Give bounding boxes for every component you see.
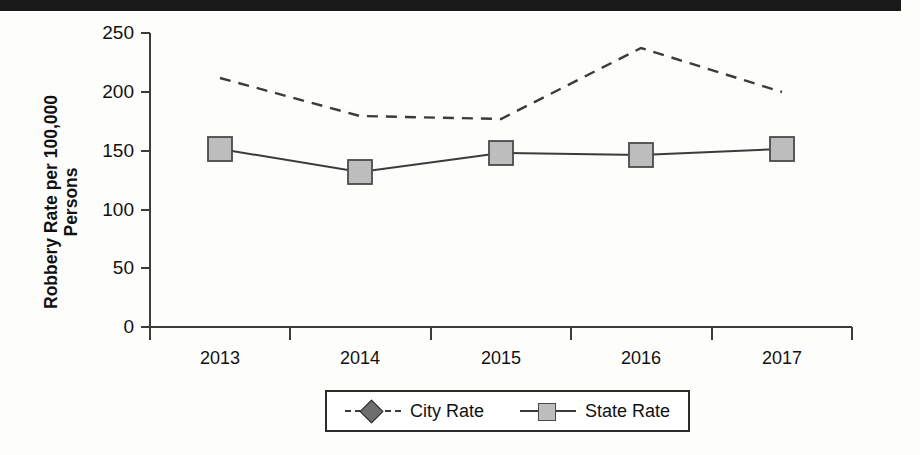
legend-label-state-rate: State Rate bbox=[585, 401, 670, 422]
legend-label-city-rate: City Rate bbox=[410, 401, 484, 422]
y-tick-label-50: 50 bbox=[78, 257, 134, 279]
x-tick-label-2017: 2017 bbox=[737, 348, 827, 369]
legend-key-city-rate bbox=[345, 400, 401, 422]
legend-key-state-rate bbox=[520, 400, 576, 422]
legend-entry-city-rate: City Rate bbox=[345, 400, 484, 422]
marker-state-2016 bbox=[629, 143, 653, 167]
y-tick-label-250: 250 bbox=[78, 22, 134, 44]
marker-state-2017 bbox=[770, 137, 794, 161]
diamond-marker-icon bbox=[359, 399, 383, 423]
x-tick-label-2013: 2013 bbox=[175, 348, 265, 369]
chart-plot-area bbox=[0, 0, 920, 455]
chart-legend: City Rate State Rate bbox=[325, 390, 690, 432]
x-tick-label-2015: 2015 bbox=[456, 348, 546, 369]
y-tick-label-0: 0 bbox=[78, 316, 134, 338]
y-tick-label-150: 150 bbox=[78, 140, 134, 162]
square-marker-icon bbox=[538, 403, 556, 421]
y-axis-ticks bbox=[141, 33, 150, 327]
marker-state-2013 bbox=[208, 137, 232, 161]
y-tick-label-200: 200 bbox=[78, 81, 134, 103]
marker-state-2014 bbox=[348, 160, 372, 184]
x-tick-label-2014: 2014 bbox=[315, 348, 405, 369]
x-tick-label-2016: 2016 bbox=[596, 348, 686, 369]
marker-state-2015 bbox=[489, 141, 513, 165]
x-axis-ticks bbox=[150, 327, 852, 340]
chart-page: Robbery Rate per 100,000 Persons bbox=[0, 0, 920, 455]
y-tick-label-100: 100 bbox=[78, 199, 134, 221]
series-line-city-rate bbox=[220, 48, 782, 119]
legend-entry-state-rate: State Rate bbox=[520, 400, 670, 422]
